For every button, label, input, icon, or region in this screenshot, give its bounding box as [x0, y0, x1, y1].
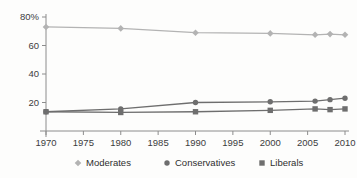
x-tick-label: 1995	[222, 137, 243, 148]
y-axis: 20406080%	[20, 11, 46, 137]
legend-label: Conservatives	[175, 157, 235, 168]
data-point-moderates	[43, 24, 50, 31]
x-tick-label: 2005	[297, 137, 318, 148]
y-tick-label: 20	[28, 97, 39, 108]
chart-page: 20406080% 197019751980198519901995200020…	[0, 0, 357, 178]
legend-label: Moderates	[86, 157, 131, 168]
data-point-moderates	[312, 32, 319, 39]
x-tick-label: 2000	[260, 137, 281, 148]
legend-marker-circle-icon	[164, 160, 169, 165]
data-point-liberals	[43, 109, 48, 114]
data-point-moderates	[342, 32, 349, 39]
x-tick-label: 1970	[35, 137, 56, 148]
legend-item-liberals[interactable]: Liberals	[259, 157, 303, 168]
data-point-liberals	[193, 109, 198, 114]
data-point-liberals	[327, 107, 332, 112]
data-point-moderates	[327, 31, 334, 38]
legend-marker-diamond-icon	[75, 160, 82, 167]
data-point-conservatives	[193, 100, 198, 105]
x-tick-label: 2010	[334, 137, 355, 148]
x-axis: 197019751980198519901995200020052010	[35, 131, 355, 148]
data-point-liberals	[312, 106, 317, 111]
data-point-liberals	[118, 110, 123, 115]
data-point-conservatives	[268, 99, 273, 104]
data-point-conservatives	[312, 98, 317, 103]
data-point-liberals	[342, 106, 347, 111]
line-chart: 20406080% 197019751980198519901995200020…	[0, 0, 357, 178]
series-moderates	[43, 24, 349, 38]
data-point-conservatives	[342, 96, 347, 101]
legend-marker-square-icon	[259, 160, 264, 165]
legend-item-moderates[interactable]: Moderates	[75, 157, 131, 168]
y-tick-label: 60	[28, 40, 39, 51]
x-tick-label: 1985	[148, 137, 169, 148]
data-point-moderates	[267, 30, 274, 37]
chart-legend: ModeratesConservativesLiberals	[75, 157, 304, 168]
legend-item-conservatives[interactable]: Conservatives	[164, 157, 235, 168]
x-tick-label: 1990	[185, 137, 206, 148]
legend-label: Liberals	[270, 157, 304, 168]
data-point-liberals	[268, 108, 273, 113]
y-tick-label: 80%	[20, 11, 40, 22]
data-point-conservatives	[327, 97, 332, 102]
x-tick-label: 1980	[110, 137, 131, 148]
series-layer	[43, 24, 349, 116]
x-tick-label: 1975	[73, 137, 94, 148]
data-point-moderates	[192, 29, 199, 36]
data-point-moderates	[117, 25, 124, 32]
y-tick-label: 40	[28, 68, 39, 79]
